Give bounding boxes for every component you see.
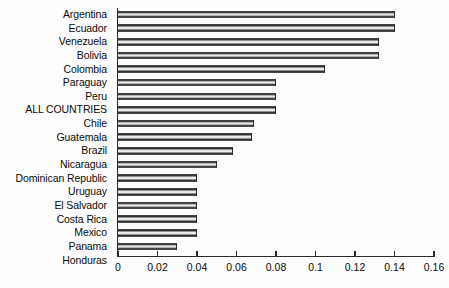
x-axis-tick: [196, 251, 197, 256]
bar: [118, 133, 252, 141]
bar: [118, 202, 197, 210]
category-label: El Salvador: [0, 199, 112, 213]
bar-row: [118, 90, 434, 104]
x-axis-tick-label: 0.12: [345, 261, 365, 273]
x-axis-tick-label: 0.1: [308, 261, 323, 273]
bar: [118, 52, 379, 60]
category-label: Uruguay: [0, 185, 112, 199]
category-label: Peru: [0, 90, 112, 104]
bar-row: [118, 199, 434, 213]
category-label: Brazil: [0, 144, 112, 158]
bar: [118, 106, 276, 114]
bar-row: [118, 49, 434, 63]
category-label: Panama: [0, 240, 112, 254]
bar-row: [118, 22, 434, 36]
x-axis-tick-label: 0.14: [384, 261, 404, 273]
category-label: Chile: [0, 117, 112, 131]
category-label: Costa Rica: [0, 213, 112, 227]
plot-area: [118, 8, 434, 255]
category-label: Dominican Republic: [0, 172, 112, 186]
category-axis: ArgentinaEcuadorVenezuelaBoliviaColombia…: [0, 8, 112, 267]
x-axis-tick: [157, 251, 158, 256]
x-axis-tick-label: 0: [115, 261, 121, 273]
bar: [118, 229, 197, 237]
bar-row: [118, 131, 434, 145]
category-label: Colombia: [0, 63, 112, 77]
category-label: Ecuador: [0, 22, 112, 36]
x-axis-line: [117, 256, 435, 257]
category-label: Bolivia: [0, 49, 112, 63]
y-axis-line: [117, 8, 118, 257]
bar-row: [118, 117, 434, 131]
x-axis-tick-label: 0.02: [147, 261, 167, 273]
bar: [118, 161, 217, 169]
bar: [118, 79, 276, 87]
x-axis-tick: [275, 251, 276, 256]
bar-row: [118, 103, 434, 117]
category-label: Nicaragua: [0, 158, 112, 172]
bar-chart: ArgentinaEcuadorVenezuelaBoliviaColombia…: [0, 0, 449, 288]
bar-row: [118, 8, 434, 22]
x-axis-tick: [315, 251, 316, 256]
bar-row: [118, 35, 434, 49]
category-label: Mexico: [0, 226, 112, 240]
category-label: Argentina: [0, 8, 112, 22]
bar: [118, 174, 197, 182]
x-axis-tick-label: 0.06: [226, 261, 246, 273]
bar-row: [118, 76, 434, 90]
bar: [118, 24, 395, 32]
bar-row: [118, 226, 434, 240]
bar: [118, 243, 177, 251]
bar-row: [118, 172, 434, 186]
category-label: ALL COUNTRIES: [0, 103, 112, 117]
bar: [118, 120, 254, 128]
bar: [118, 93, 276, 101]
x-axis-tick: [354, 251, 355, 256]
bar: [118, 147, 233, 155]
bar-row: [118, 185, 434, 199]
x-axis-tick: [236, 251, 237, 256]
x-axis-tick-label: 0.04: [187, 261, 207, 273]
x-axis-tick: [433, 251, 434, 256]
bar: [118, 65, 325, 73]
x-axis-tick-label: 0.08: [266, 261, 286, 273]
bar: [118, 11, 395, 19]
x-axis-tick: [394, 251, 395, 256]
bar-row: [118, 158, 434, 172]
bar: [118, 215, 197, 223]
category-label: Paraguay: [0, 76, 112, 90]
bar: [118, 38, 379, 46]
category-label: Venezuela: [0, 35, 112, 49]
bar-row: [118, 213, 434, 227]
bar-row: [118, 144, 434, 158]
category-label: Guatemala: [0, 131, 112, 145]
bar: [118, 188, 197, 196]
x-axis-tick: [117, 251, 118, 256]
category-label: Honduras: [0, 254, 112, 268]
x-axis-tick-label: 0.16: [424, 261, 444, 273]
bar-row: [118, 63, 434, 77]
